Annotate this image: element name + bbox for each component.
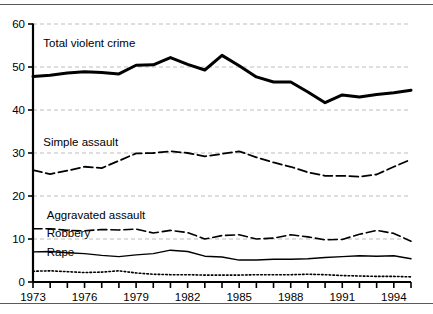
x-tick-label-1979: 1979 [123, 291, 149, 303]
y-tick-label-30: 30 [12, 147, 25, 159]
y-tick-label-50: 50 [12, 61, 25, 73]
x-tick-label-1976: 1976 [72, 291, 98, 303]
x-tick-label-1991: 1991 [329, 291, 355, 303]
x-tick-label-1982: 1982 [175, 291, 201, 303]
x-axis-ticks: 19731976197919821985198819911994 [20, 282, 411, 303]
y-axis-ticks: 0102030405060 [12, 18, 33, 288]
x-tick-label-1994: 1994 [381, 291, 407, 303]
series-label-total-violent-crime: Total violent crime [43, 37, 135, 49]
x-tick-label-1973: 1973 [20, 291, 46, 303]
y-tick-label-60: 60 [12, 18, 25, 30]
series-label-rape: Rape [47, 246, 75, 258]
y-tick-label-20: 20 [12, 190, 25, 202]
x-tick-label-1985: 1985 [226, 291, 252, 303]
series-line-total-violent-crime [33, 55, 411, 102]
series-line-rape [33, 271, 411, 277]
line-chart: 0102030405060197319761979198219851988199… [0, 0, 433, 314]
bottom-divider-rule [0, 303, 433, 304]
y-tick-label-40: 40 [12, 104, 25, 116]
top-divider-rule [0, 4, 433, 5]
y-tick-label-10: 10 [12, 233, 25, 245]
series-line-robbery [33, 250, 411, 260]
chart-figure: 0102030405060197319761979198219851988199… [0, 0, 433, 314]
series-label-simple-assault: Simple assault [43, 136, 119, 148]
series-label-aggravated-assault: Aggravated assault [47, 209, 146, 221]
series-line-simple-assault [33, 151, 411, 176]
x-tick-label-1988: 1988 [278, 291, 304, 303]
y-tick-label-0: 0 [19, 276, 25, 288]
series-label-robbery: Robbery [47, 227, 91, 239]
